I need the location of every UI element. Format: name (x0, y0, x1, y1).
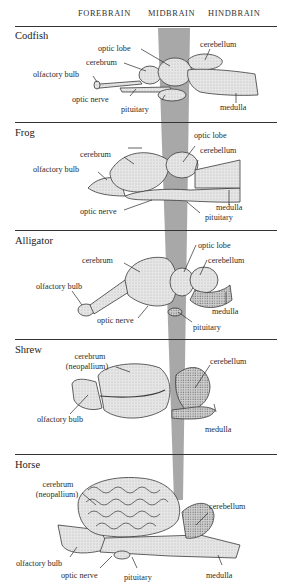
header-hindbrain: HINDBRAIN (208, 9, 260, 18)
species-title: Codfish (15, 30, 48, 41)
label-medulla: medulla (216, 203, 242, 212)
label-cerebellum: cerebellum (209, 502, 245, 511)
label-cerebellum: cerebellum (200, 40, 236, 49)
label-olfactory-bulb: olfactory bulb (16, 559, 62, 568)
label-cerebrum: cerebrum (86, 58, 117, 67)
alligator-brain (78, 257, 232, 316)
shrew-brain (72, 364, 215, 419)
label-optic-nerve: optic nerve (72, 95, 109, 104)
label-optic-nerve: optic nerve (97, 316, 134, 325)
label-optic-nerve: optic nerve (61, 571, 98, 580)
header-midbrain: MIDBRAIN (148, 9, 195, 18)
label-optic-nerve: optic nerve (80, 207, 117, 216)
label-pituitary: pituitary (121, 105, 149, 114)
label-cerebrum: cerebrum (28, 480, 88, 489)
species-title: Shrew (15, 344, 42, 355)
label-pituitary: pituitary (193, 323, 221, 332)
label-olfactory-bulb: olfactory bulb (33, 165, 79, 174)
label-olfactory-bulb: olfactory bulb (36, 282, 82, 291)
label-cerebellum: cerebellum (208, 256, 244, 265)
label-optic-lobe: optic lobe (194, 131, 227, 140)
label-cerebrum: cerebrum (82, 256, 113, 265)
label-medulla: medulla (212, 307, 238, 316)
species-title: Horse (15, 459, 40, 470)
label-medulla: medulla (206, 571, 232, 580)
species-title: Alligator (15, 235, 53, 246)
label-olfactory-bulb: olfactory bulb (37, 415, 83, 424)
label-pituitary: pituitary (205, 213, 233, 222)
label-cerebellum: cerebellum (210, 357, 246, 366)
label-medulla: medulla (220, 103, 246, 112)
header-forebrain: FOREBRAIN (78, 9, 131, 18)
label-neopallium: (neopallium) (22, 490, 92, 499)
label-optic-lobe: optic lobe (98, 44, 131, 53)
species-title: Frog (15, 127, 35, 138)
label-pituitary: pituitary (124, 573, 152, 582)
label-neopallium: (neopallium) (52, 362, 122, 371)
label-cerebellum: cerebellum (200, 146, 236, 155)
codfish-brain (94, 54, 258, 101)
label-cerebrum: cerebrum (60, 352, 120, 361)
label-optic-lobe: optic lobe (198, 241, 231, 250)
label-medulla: medulla (205, 425, 231, 434)
brain-evolution-diagram: FOREBRAIN MIDBRAIN HINDBRAIN Codfish opt… (0, 0, 290, 587)
label-cerebrum: cerebrum (80, 150, 111, 159)
label-olfactory-bulb: olfactory bulb (33, 70, 79, 79)
